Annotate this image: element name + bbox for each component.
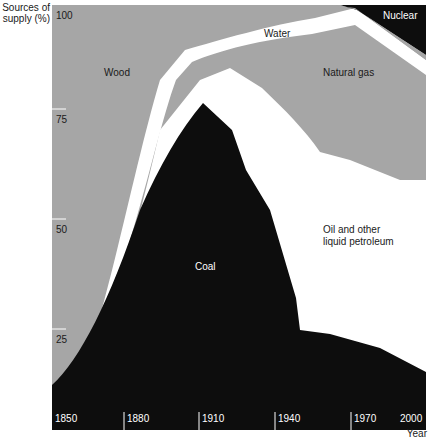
label-oil-1: Oil and other <box>323 224 381 235</box>
label-oil-2: liquid petroleum <box>323 236 394 247</box>
y-tick-label-100: 100 <box>56 10 73 21</box>
label-water: Water <box>264 28 291 39</box>
label-wood: Wood <box>104 67 130 78</box>
y-tick-label-25: 25 <box>56 334 68 345</box>
x-tick-label-2000: 2000 <box>400 413 423 424</box>
x-axis-label: Year <box>407 428 427 439</box>
label-nuclear: Nuclear <box>383 10 418 21</box>
y-tick-label-75: 75 <box>56 114 68 125</box>
x-tick-label-1880: 1880 <box>127 413 150 424</box>
y-tick-label-50: 50 <box>56 224 68 235</box>
x-tick-label-1850: 1850 <box>55 413 78 424</box>
label-coal: Coal <box>195 261 216 272</box>
label-natural-gas: Natural gas <box>323 67 374 78</box>
energy-sources-chart: 100 75 50 25 1850 1880 1910 1940 1970 20… <box>0 0 433 442</box>
x-tick-label-1970: 1970 <box>354 413 377 424</box>
x-tick-label-1910: 1910 <box>202 413 225 424</box>
x-tick-label-1940: 1940 <box>278 413 301 424</box>
